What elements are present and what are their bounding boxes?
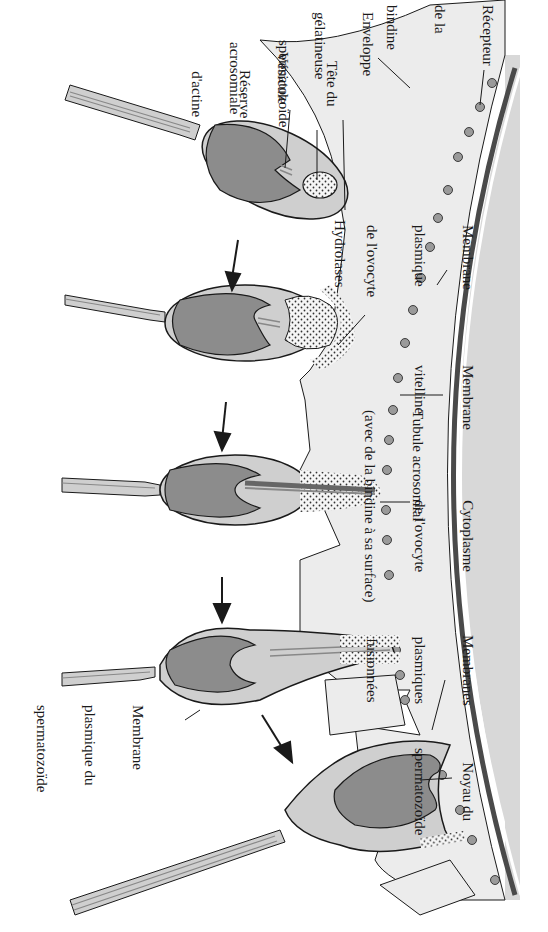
label-sperm-nucleus: Noyau du spermatozoïde: [380, 748, 508, 835]
acrosome-reaction-diagram: Récepteur de la bindine Enveloppe gélati…: [0, 0, 548, 932]
label-line: plasmique: [412, 225, 428, 297]
sperm-stage-2: [65, 285, 355, 370]
label-line: d'actine: [189, 70, 205, 118]
label-line: Membrane: [130, 705, 146, 792]
label-actin-reserve: Réserve d'actine: [157, 70, 285, 118]
label-line: spermatozoïde: [34, 705, 50, 792]
label-fused-membranes: Membranes plasmiques fusionnées: [332, 635, 508, 706]
label-line: Membrane: [460, 225, 476, 297]
label-oocyte-plasma-membrane: Membrane plasmique de l'ovocyte: [332, 225, 508, 297]
label-line: de la: [432, 5, 448, 66]
label-line: plasmique du: [82, 705, 98, 792]
label-line: (avec de la bindine à sa surface): [362, 410, 378, 602]
label-line: Membranes: [460, 635, 476, 706]
label-line: Membrane: [460, 365, 476, 430]
label-line: de l'ovocyte: [412, 500, 428, 572]
label-line: de l'ovocyte: [364, 225, 380, 297]
label-line: Réserve: [237, 70, 253, 118]
label-line: Tête du: [324, 40, 340, 127]
label-oocyte-cytoplasm: Cytoplasme de l'ovocyte: [380, 500, 508, 572]
label-sperm-plasma-membrane: Membrane plasmique du spermatozoïde: [2, 705, 178, 792]
label-line: spermatozoïde: [412, 748, 428, 835]
label-line: Récepteur: [480, 5, 496, 66]
label-line: Cytoplasme: [460, 500, 476, 572]
label-line: fusionnées: [364, 635, 380, 706]
label-line: Noyau du: [460, 748, 476, 835]
label-line: plasmiques: [412, 635, 428, 706]
